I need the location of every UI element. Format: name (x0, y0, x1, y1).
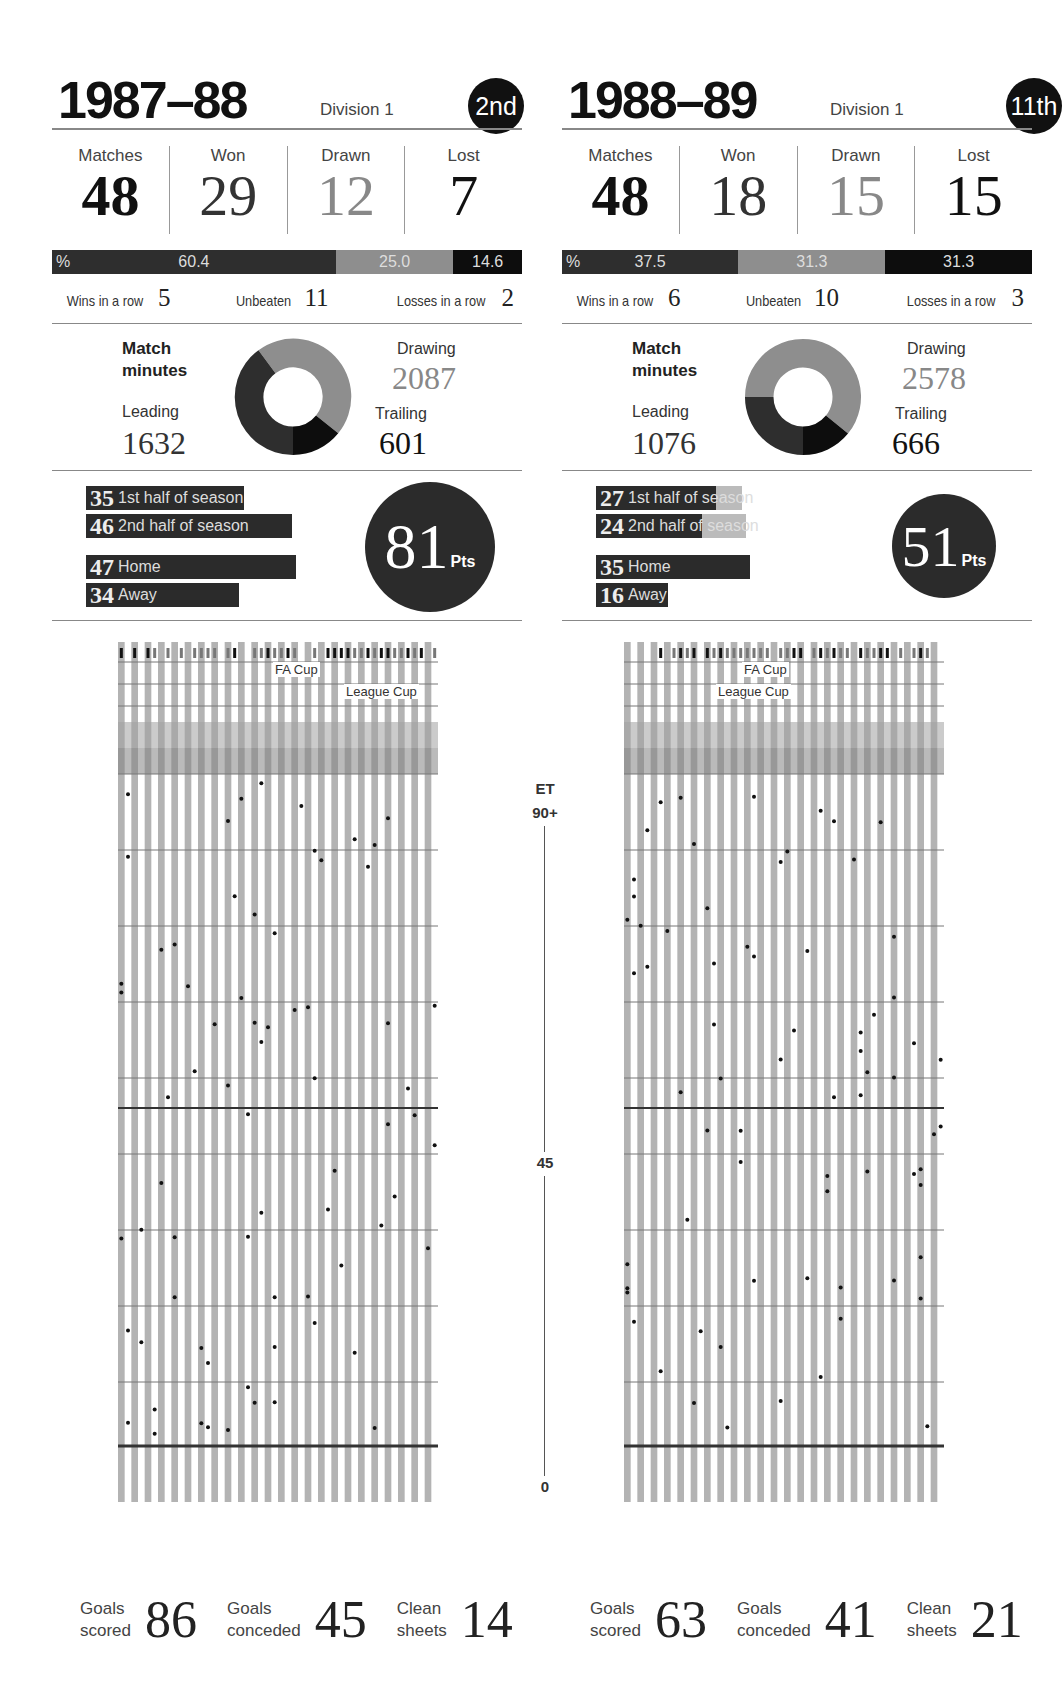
fa-cup-label: FA Cup (742, 662, 789, 677)
goal-timeline-grid: FA Cup League Cup (118, 642, 464, 1560)
axis-label-90plus: 90+ (530, 804, 560, 821)
axis-line (544, 1176, 545, 1476)
trailing-value: 601 (379, 425, 427, 462)
trailing-label: Trailing (895, 405, 947, 423)
divider (562, 128, 1032, 130)
divider (52, 620, 522, 621)
points-total-circle: 81Pts (365, 482, 495, 612)
leading-value: 1076 (632, 425, 696, 462)
result-percentage-bar: %37.5 31.3 31.3 (562, 250, 1032, 274)
streaks: Wins in a row5 Unbeaten11 Losses in a ro… (52, 284, 522, 312)
season-panel-1988-89: 1988–89 Division 1 11th Matches48 Won18 … (562, 0, 1032, 1681)
streak-losses: Losses in a row2 (389, 284, 514, 312)
goals-conceded-label: Goalsconceded (227, 1598, 301, 1642)
stat-drawn: Drawn12 (287, 146, 405, 234)
pct-drawn: 31.3 (738, 250, 885, 274)
season-totals: Goalsscored 86 Goalsconceded 45 Cleanshe… (80, 1590, 520, 1649)
stat-matches: Matches48 (52, 146, 169, 234)
points-bar-away: 16Away (596, 583, 668, 607)
leading-label: Leading (122, 403, 179, 421)
match-minutes-donut (744, 338, 862, 456)
league-position-badge: 2nd (468, 78, 524, 134)
goals-scored-label: Goalsscored (80, 1598, 131, 1642)
match-minutes-title: Matchminutes (632, 338, 697, 382)
points-bar-away: 34Away (86, 583, 239, 607)
divider (52, 323, 522, 324)
goal-timeline-grid: FA Cup League Cup (624, 642, 970, 1560)
points-bar-second-half: 462nd half of season (86, 514, 292, 538)
goals-conceded-value: 41 (825, 1590, 877, 1649)
pct-won: %37.5 (562, 250, 738, 274)
divider (52, 128, 522, 130)
minute-axis: ET 90+ 45 0 (530, 780, 560, 1570)
streak-unbeaten: Unbeaten10 (741, 284, 839, 312)
stat-matches: Matches48 (562, 146, 679, 234)
streak-wins: Wins in a row5 (60, 284, 171, 312)
goals-conceded-value: 45 (315, 1590, 367, 1649)
streak-wins: Wins in a row6 (570, 284, 681, 312)
clean-sheets-label: Cleansheets (907, 1598, 957, 1642)
division-label: Division 1 (830, 100, 904, 120)
trailing-value: 666 (892, 425, 940, 462)
leading-label: Leading (632, 403, 689, 421)
goal-timeline-svg (118, 642, 464, 1560)
divider (562, 620, 1032, 621)
leading-value: 1632 (122, 425, 186, 462)
points-bar-home: 35Home (596, 555, 750, 579)
axis-label-45: 45 (530, 1154, 560, 1171)
stat-won: Won18 (679, 146, 797, 234)
goals-conceded-label: Goalsconceded (737, 1598, 811, 1642)
stat-won: Won29 (169, 146, 287, 234)
pct-lost: 31.3 (885, 250, 1032, 274)
streaks: Wins in a row6 Unbeaten10 Losses in a ro… (562, 284, 1032, 312)
drawing-label: Drawing (397, 340, 456, 358)
drawing-value: 2578 (902, 360, 966, 397)
streak-unbeaten: Unbeaten11 (231, 284, 328, 312)
match-minutes-donut (234, 338, 352, 456)
streak-losses: Losses in a row3 (899, 284, 1024, 312)
points-bar-first-half: 351st half of season (86, 486, 244, 510)
pct-lost: 14.6 (453, 250, 522, 274)
points-bar-first-half: 271st half of season (596, 486, 716, 510)
axis-label-et: ET (530, 780, 560, 797)
goals-scored-value: 86 (145, 1590, 197, 1649)
pct-won: %60.4 (52, 250, 336, 274)
league-cup-label: League Cup (344, 684, 419, 699)
season-totals: Goalsscored 63 Goalsconceded 41 Cleanshe… (590, 1590, 1030, 1649)
goals-scored-label: Goalsscored (590, 1598, 641, 1642)
axis-line (544, 826, 545, 1152)
divider (52, 470, 522, 471)
points-bar-second-half: 242nd half of season (596, 514, 702, 538)
stat-drawn: Drawn15 (797, 146, 915, 234)
divider (562, 470, 1032, 471)
goals-scored-value: 63 (655, 1590, 707, 1649)
axis-label-0: 0 (530, 1478, 560, 1495)
trailing-label: Trailing (375, 405, 427, 423)
fa-cup-label: FA Cup (273, 662, 320, 677)
clean-sheets-value: 21 (971, 1590, 1023, 1649)
stat-lost: Lost7 (404, 146, 522, 234)
points-total-circle: 51Pts (892, 494, 996, 598)
results-summary: Matches48 Won29 Drawn12 Lost7 (52, 146, 522, 234)
season-title: 1988–89 (568, 70, 756, 130)
result-percentage-bar: %60.4 25.0 14.6 (52, 250, 522, 274)
division-label: Division 1 (320, 100, 394, 120)
drawing-value: 2087 (392, 360, 456, 397)
clean-sheets-label: Cleansheets (397, 1598, 447, 1642)
league-position-badge: 11th (1006, 78, 1062, 134)
results-summary: Matches48 Won18 Drawn15 Lost15 (562, 146, 1032, 234)
match-minutes-title: Matchminutes (122, 338, 187, 382)
clean-sheets-value: 14 (461, 1590, 513, 1649)
season-title: 1987–88 (58, 70, 246, 130)
stat-lost: Lost15 (914, 146, 1032, 234)
pct-drawn: 25.0 (336, 250, 454, 274)
season-panel-1987-88: 1987–88 Division 1 2nd Matches48 Won29 D… (52, 0, 522, 1681)
league-cup-label: League Cup (716, 684, 791, 699)
goal-timeline-svg (624, 642, 970, 1560)
points-bar-home: 47Home (86, 555, 296, 579)
divider (562, 323, 1032, 324)
drawing-label: Drawing (907, 340, 966, 358)
